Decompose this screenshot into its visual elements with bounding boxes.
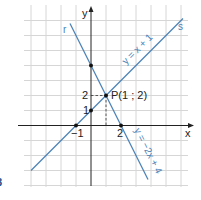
figure-number: 8 [0, 176, 2, 188]
tick-label-x-2: 2 [117, 127, 123, 139]
x-axis-label: x [185, 127, 191, 139]
diagram-canvas: x y s r y = x + 1 y = −2x + 4 − [0, 0, 201, 200]
point-r-y-intercept [89, 64, 93, 68]
tick-label-y-2: 2 [82, 89, 88, 101]
point-s-y-intercept [89, 109, 93, 113]
tick-label-x-neg1: −1 [71, 127, 84, 139]
y-axis-label: y [82, 7, 88, 19]
line-s-name-label: s [178, 21, 183, 32]
point-p [104, 94, 108, 98]
line-s-equation-label: y = x + 1 [120, 31, 155, 66]
tick-label-y-1: 1 [83, 104, 89, 116]
point-p-label: P(1 ; 2) [111, 89, 147, 101]
y-axis-arrow-icon [89, 6, 94, 12]
line-r-equation-label: y = −2x + 4 [132, 126, 165, 176]
line-r-name-label: r [63, 24, 67, 35]
coordinate-diagram: x y s r y = x + 1 y = −2x + 4 − [0, 0, 201, 200]
